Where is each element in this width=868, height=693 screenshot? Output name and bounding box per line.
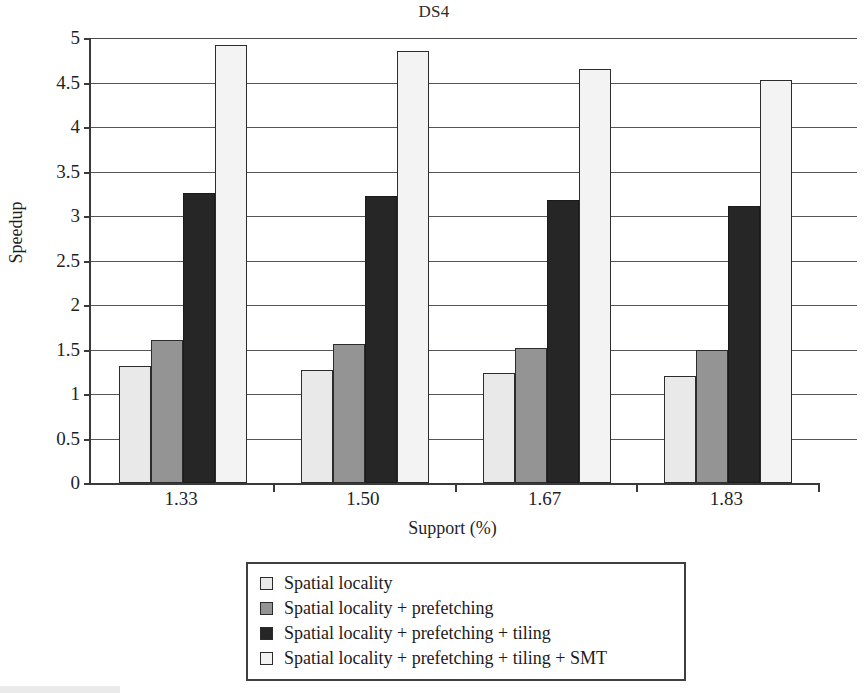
- legend-swatch-icon: [260, 652, 273, 665]
- y-axis-tick-label: 4: [71, 116, 81, 138]
- y-axis-tick: [84, 439, 91, 441]
- x-axis-tick: [818, 483, 820, 492]
- x-axis-tick-label: 1.50: [346, 488, 379, 510]
- bar: [119, 366, 151, 483]
- x-axis-tick-label: 1.83: [710, 488, 743, 510]
- bar: [728, 206, 760, 483]
- bar: [333, 344, 365, 483]
- y-axis-tick-label: 2.5: [56, 250, 80, 272]
- y-axis-tick-label: 5: [71, 27, 81, 49]
- y-axis-tick: [84, 261, 91, 263]
- y-axis-tick: [84, 172, 91, 174]
- scan-artifact: [0, 686, 120, 693]
- y-axis-tick: [84, 216, 91, 218]
- y-axis-tick: [84, 350, 91, 352]
- y-axis-tick-label: 3: [71, 205, 81, 227]
- bar: [365, 196, 397, 483]
- x-axis-tick-labels: 1.331.501.671.83: [89, 488, 816, 518]
- y-axis-tick-label: 2: [71, 294, 81, 316]
- bar: [664, 376, 696, 483]
- bar: [515, 348, 547, 483]
- gridline: [91, 38, 857, 39]
- x-axis-title: Support (%): [89, 518, 816, 539]
- x-axis-tick-label: 1.67: [528, 488, 561, 510]
- legend-item-label: Spatial locality + prefetching: [284, 598, 494, 619]
- gridline: [91, 127, 857, 128]
- gridline: [91, 172, 857, 173]
- y-axis-tick: [84, 483, 91, 485]
- bar: [151, 340, 183, 483]
- bar-chart-figure: DS4 00.511.522.533.544.55 1.331.501.671.…: [0, 0, 868, 693]
- y-axis-tick: [84, 83, 91, 85]
- bar: [547, 200, 579, 483]
- y-axis-tick-label: 3.5: [56, 161, 80, 183]
- bar: [215, 45, 247, 483]
- y-axis-tick-label: 4.5: [56, 72, 80, 94]
- legend-item: Spatial locality + prefetching + tiling …: [260, 646, 674, 671]
- legend-item-label: Spatial locality: [284, 573, 392, 594]
- bar: [397, 51, 429, 483]
- x-axis-tick-label: 1.33: [164, 488, 197, 510]
- plot-area: [89, 38, 818, 485]
- bar: [183, 193, 215, 483]
- chart-legend: Spatial localitySpatial locality + prefe…: [246, 562, 686, 681]
- bar: [760, 80, 792, 483]
- legend-item: Spatial locality: [260, 571, 674, 596]
- y-axis-tick-label: 1: [71, 383, 81, 405]
- y-axis-tick-label: 1.5: [56, 339, 80, 361]
- chart-title: DS4: [0, 2, 868, 22]
- legend-item: Spatial locality + prefetching + tiling: [260, 621, 674, 646]
- bar: [696, 350, 728, 484]
- y-axis-tick: [84, 127, 91, 129]
- bar: [579, 69, 611, 483]
- legend-item: Spatial locality + prefetching: [260, 596, 674, 621]
- legend-item-label: Spatial locality + prefetching + tiling …: [284, 648, 607, 669]
- y-axis-tick: [84, 394, 91, 396]
- bar: [483, 373, 515, 483]
- legend-swatch-icon: [260, 602, 273, 615]
- legend-item-label: Spatial locality + prefetching + tiling: [284, 623, 551, 644]
- y-axis-tick: [84, 305, 91, 307]
- y-axis-tick-label: 0.5: [56, 428, 80, 450]
- legend-swatch-icon: [260, 577, 273, 590]
- y-axis-tick: [84, 38, 91, 40]
- y-axis-title: Speedup: [6, 173, 27, 293]
- bar: [301, 370, 333, 483]
- legend-swatch-icon: [260, 627, 273, 640]
- y-axis-tick-label: 0: [71, 472, 81, 494]
- gridline: [91, 83, 857, 84]
